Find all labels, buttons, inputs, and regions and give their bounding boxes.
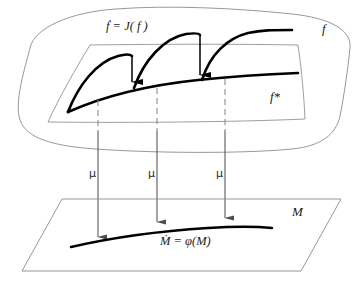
mu-label-3: μ	[216, 168, 223, 179]
dashed-projection-lines	[98, 79, 225, 131]
inner-plane-label-fstar: f*	[270, 90, 280, 103]
lower-plane-label-M: M	[292, 205, 303, 218]
mu-label-1: μ	[89, 168, 96, 179]
outer-set-blob	[18, 7, 350, 152]
diagram-figure: ḟ = J( f ) f f* M Ṁ = φ(M) μ μ μ	[0, 0, 360, 285]
upper-trajectory-curve	[68, 73, 298, 112]
mu-label-2: μ	[148, 168, 155, 179]
jacobian-arc-1	[68, 55, 132, 113]
outer-set-label-f: f	[322, 22, 326, 35]
operator-label-jf: ḟ = J( f )	[106, 20, 148, 33]
mu-projection-arrows	[98, 131, 225, 237]
lower-curve-label-mphi: Ṁ = φ(M)	[160, 235, 211, 248]
jacobian-arc-3	[202, 30, 292, 80]
